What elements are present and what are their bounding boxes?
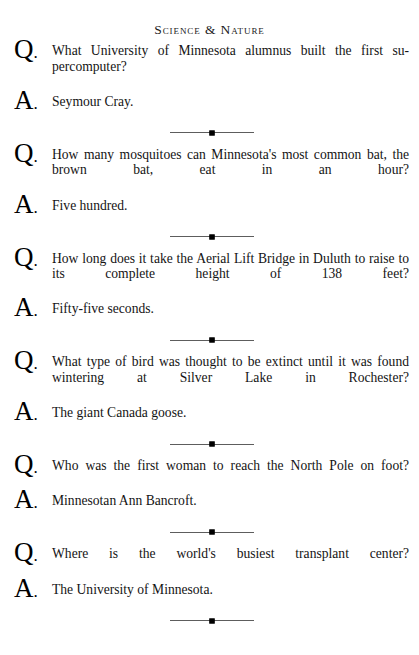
- question-text: How long does it take the Aerial Lift Br…: [52, 250, 409, 298]
- question-row: Q. What type of bird was thought to be e…: [14, 353, 409, 401]
- question-row: Q. What University of Minnesota alumnus …: [14, 42, 409, 90]
- qa-block: Q. Where is the world's busiest transpla…: [14, 545, 409, 607]
- answer-marker: A.: [14, 398, 52, 425]
- answer-marker: A.: [14, 87, 52, 114]
- question-row: Q. Who was the first woman to reach the …: [14, 457, 409, 489]
- document-page: Science & Nature Q. What University of M…: [0, 0, 419, 655]
- question-text: What University of Minnesota alumnus bui…: [52, 42, 409, 90]
- answer-text: Seymour Cray.: [52, 93, 409, 110]
- question-row: Q. How long does it take the Aerial Lift…: [14, 250, 409, 298]
- qa-list: Q. What University of Minnesota alumnus …: [0, 42, 419, 634]
- section-divider: [14, 608, 409, 634]
- qa-block: Q. Who was the first woman to reach the …: [14, 457, 409, 519]
- qa-block: Q. How many mosquitoes can Minnesota's m…: [14, 146, 409, 224]
- answer-row: A. Seymour Cray.: [14, 93, 409, 120]
- section-divider: [14, 519, 409, 545]
- answer-marker: A.: [14, 294, 52, 321]
- question-row: Q. Where is the world's busiest transpla…: [14, 545, 409, 577]
- answer-row: A. The University of Minnesota.: [14, 581, 409, 608]
- section-divider: [14, 224, 409, 250]
- answer-row: A. The giant Canada goose.: [14, 404, 409, 431]
- page-title: Science & Nature: [0, 0, 419, 42]
- question-row: Q. How many mosquitoes can Minnesota's m…: [14, 146, 409, 194]
- answer-text: The giant Canada goose.: [52, 404, 409, 421]
- question-marker: Q.: [14, 451, 52, 478]
- section-divider: [14, 327, 409, 353]
- answer-text: Minnesotan Ann Bancroft.: [52, 492, 409, 509]
- answer-row: A. Minnesotan Ann Bancroft.: [14, 492, 409, 519]
- answer-marker: A.: [14, 575, 52, 602]
- question-marker: Q.: [14, 244, 52, 271]
- answer-row: A. Five hundred.: [14, 197, 409, 224]
- section-divider: [14, 120, 409, 146]
- question-text: What type of bird was thought to be exti…: [52, 353, 409, 401]
- answer-row: A. Fifty-five seconds.: [14, 300, 409, 327]
- question-marker: Q.: [14, 140, 52, 167]
- question-marker: Q.: [14, 539, 52, 566]
- question-text: How many mosquitoes can Minnesota's most…: [52, 146, 409, 194]
- answer-text: Fifty-five seconds.: [52, 300, 409, 317]
- qa-block: Q. What type of bird was thought to be e…: [14, 353, 409, 431]
- question-text: Who was the first woman to reach the Nor…: [52, 457, 409, 489]
- question-marker: Q.: [14, 36, 52, 63]
- answer-text: Five hundred.: [52, 197, 409, 214]
- question-text: Where is the world's busiest transplant …: [52, 545, 409, 577]
- qa-block: Q. How long does it take the Aerial Lift…: [14, 250, 409, 328]
- answer-marker: A.: [14, 191, 52, 218]
- answer-marker: A.: [14, 486, 52, 513]
- question-marker: Q.: [14, 347, 52, 374]
- section-divider: [14, 431, 409, 457]
- answer-text: The University of Minnesota.: [52, 581, 409, 598]
- qa-block: Q. What University of Minnesota alumnus …: [14, 42, 409, 120]
